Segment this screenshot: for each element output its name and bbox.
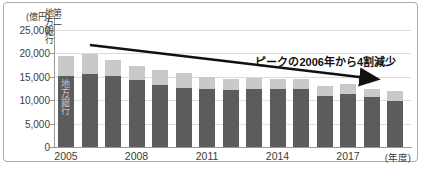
bar-segment-regional-bank-2010	[176, 88, 192, 147]
bar-segment-regional-bank-2016	[317, 96, 333, 147]
bar-segment-regional-bank-2014	[270, 89, 286, 147]
y-axis-unit-label: (億円)	[10, 10, 50, 23]
bar-segment-second-regional-bank-2014	[270, 79, 286, 90]
bar-segment-regional-bank-2017	[340, 94, 356, 147]
bar-segment-second-regional-bank-2010	[176, 73, 192, 88]
x-axis-tick-label-2011: 2011	[196, 150, 219, 162]
bar-segment-second-regional-bank-2017	[340, 84, 356, 94]
y-axis-tick-label: 20,000	[4, 48, 50, 59]
x-axis-tick-label-2008: 2008	[125, 150, 148, 162]
x-axis-tick-label-2005: 2005	[54, 150, 77, 162]
x-axis-line	[54, 147, 412, 148]
bar-segment-second-regional-bank-2007	[105, 60, 121, 76]
bar-segment-second-regional-bank-2018	[364, 89, 380, 98]
bar-segment-regional-bank-2011	[199, 89, 215, 147]
bar-segment-second-regional-bank-2005	[58, 56, 74, 76]
bar-segment-regional-bank-2006	[82, 74, 98, 147]
bar-segment-regional-bank-2012	[223, 90, 239, 147]
bar-segment-regional-bank-2008	[129, 80, 145, 147]
bar-segment-regional-bank-2007	[105, 76, 121, 147]
legend-label-regional-bank: 地方銀行	[60, 79, 69, 115]
bar-segment-second-regional-bank-2006	[82, 54, 98, 74]
y-axis-tick-label: 25,000	[4, 25, 50, 36]
y-axis-tick-label: 5,000	[4, 119, 50, 130]
bar-segment-second-regional-bank-2008	[129, 66, 145, 80]
x-axis-tick-label-2014: 2014	[266, 150, 289, 162]
bar-segment-second-regional-bank-2009	[152, 70, 168, 85]
bar-segment-regional-bank-2018	[364, 97, 380, 147]
bar-segment-second-regional-bank-2013	[246, 78, 262, 89]
bar-segment-second-regional-bank-2019	[387, 91, 403, 100]
bar-segment-regional-bank-2009	[152, 85, 168, 147]
y-axis-tick-label: 0	[4, 142, 50, 153]
y-axis-tick-label: 10,000	[4, 95, 50, 106]
bar-segment-regional-bank-2019	[387, 101, 403, 147]
bar-segment-regional-bank-2013	[246, 89, 262, 147]
bar-segment-regional-bank-2015	[293, 89, 309, 147]
legend-label-second-regional-bank: 第二 地方銀行	[45, 8, 60, 60]
x-axis-unit-label: (年度)	[385, 150, 411, 164]
bar-segment-second-regional-bank-2012	[223, 79, 239, 90]
bar-segment-second-regional-bank-2015	[293, 79, 309, 89]
plot-area	[54, 30, 411, 147]
bar-segment-second-regional-bank-2011	[199, 77, 215, 89]
x-axis-labels: (年度) 20052008201120142017	[54, 150, 411, 164]
chart-card: (億円) 25,00020,00015,00010,0005,0000 (年度)…	[3, 2, 418, 162]
gridline-25000	[54, 30, 411, 31]
x-axis-tick-label-2017: 2017	[336, 150, 359, 162]
bar-segment-second-regional-bank-2016	[317, 86, 333, 95]
legend-label-second-regional-bank-col2: 地方銀行	[45, 8, 53, 60]
annotation-text: ピークの2006年から4割減少	[255, 53, 396, 69]
y-axis-tick-label: 15,000	[4, 72, 50, 83]
